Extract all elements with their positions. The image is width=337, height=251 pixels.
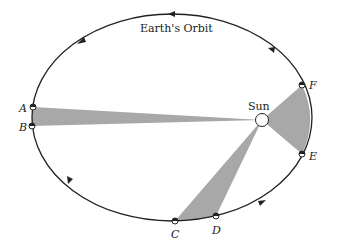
sun-icon <box>256 114 269 127</box>
label-d: D <box>211 224 221 237</box>
sector-ab <box>32 107 262 126</box>
point-e <box>299 151 305 157</box>
label-e: E <box>308 150 317 163</box>
arrow-icon <box>168 11 175 17</box>
orbit-title: Earth's Orbit <box>140 22 213 35</box>
arrow-icon <box>268 47 275 53</box>
kepler-second-law-diagram: Sun Earth's Orbit A B C D E <box>0 0 337 251</box>
point-a <box>30 104 36 110</box>
sector-cd <box>175 120 262 221</box>
label-b: B <box>18 121 27 134</box>
label-a: A <box>18 102 27 115</box>
sector-ef <box>262 85 310 154</box>
point-b <box>29 123 35 129</box>
label-c: C <box>171 228 180 241</box>
orbit-direction-arrows <box>67 11 275 206</box>
point-d <box>213 213 219 219</box>
label-f: F <box>308 79 317 92</box>
point-f <box>299 82 305 88</box>
sun-label: Sun <box>248 100 270 113</box>
arrow-icon <box>67 176 73 184</box>
point-c <box>172 218 178 224</box>
arrow-icon <box>258 200 266 206</box>
